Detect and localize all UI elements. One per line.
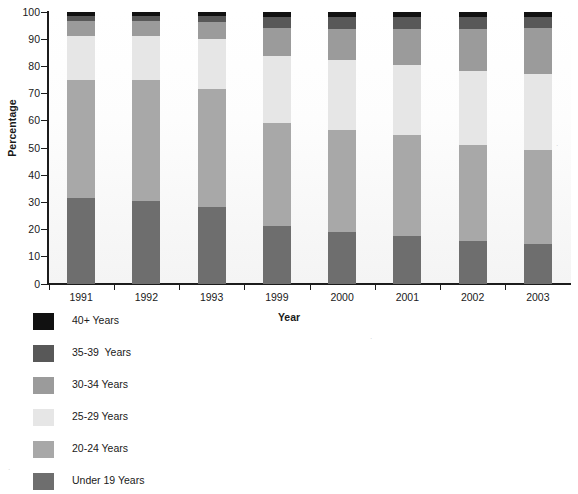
bar-2000 bbox=[328, 12, 356, 284]
plot-background bbox=[49, 11, 571, 283]
legend-swatch bbox=[33, 409, 54, 426]
x-tick-mark bbox=[114, 285, 115, 290]
y-tick-label: 90 bbox=[14, 33, 40, 45]
bar-1993 bbox=[198, 12, 226, 284]
bar-segment bbox=[198, 89, 226, 207]
bar-segment bbox=[459, 17, 487, 29]
bar-segment bbox=[263, 123, 291, 226]
bar-segment bbox=[393, 29, 421, 64]
bar-segment bbox=[459, 71, 487, 144]
decorative-mark-right: · bbox=[556, 142, 558, 149]
bar-segment bbox=[393, 135, 421, 236]
y-tick-label: 20 bbox=[14, 223, 40, 235]
bar-segment bbox=[459, 12, 487, 17]
y-tick-label: 40 bbox=[14, 169, 40, 181]
legend-item[interactable]: 20-24 Years bbox=[33, 437, 333, 469]
legend-label: Under 19 Years bbox=[72, 474, 144, 486]
bar-segment bbox=[263, 28, 291, 57]
bar-segment bbox=[328, 17, 356, 29]
x-tick-mark bbox=[179, 285, 180, 290]
y-tick-label: 100 bbox=[14, 6, 40, 18]
plot-area: Percentage 1009080706050403020100 199119… bbox=[0, 0, 578, 300]
bar-segment bbox=[198, 16, 226, 23]
x-tick-label: 1992 bbox=[111, 291, 181, 303]
y-axis-line bbox=[47, 11, 49, 284]
y-tick-label: 60 bbox=[14, 114, 40, 126]
bar-segment bbox=[328, 130, 356, 232]
bar-segment bbox=[67, 80, 95, 198]
bar-segment bbox=[524, 74, 552, 150]
bar-segment bbox=[524, 244, 552, 283]
legend-item[interactable]: Under 19 Years bbox=[33, 469, 333, 494]
x-tick-label: 1991 bbox=[46, 291, 116, 303]
x-tick-mark bbox=[505, 285, 506, 290]
bar-segment bbox=[393, 236, 421, 284]
bar-segment bbox=[132, 21, 160, 36]
legend-item[interactable]: 40+ Years bbox=[33, 309, 333, 341]
bar-1999 bbox=[263, 12, 291, 284]
bar-segment bbox=[198, 22, 226, 38]
legend-swatch bbox=[33, 473, 54, 490]
bar-segment bbox=[198, 207, 226, 283]
x-tick-label: 2003 bbox=[503, 291, 573, 303]
bar-segment bbox=[393, 17, 421, 29]
chart-legend: 40+ Years35-39 Years30-34 Years25-29 Yea… bbox=[33, 309, 333, 494]
bar-segment bbox=[263, 17, 291, 28]
legend-item[interactable]: 35-39 Years bbox=[33, 341, 333, 373]
y-tick-label: 0 bbox=[14, 278, 40, 290]
bar-segment bbox=[132, 80, 160, 201]
y-tick-label: 50 bbox=[14, 142, 40, 154]
bar-segment bbox=[67, 21, 95, 36]
bar-segment bbox=[198, 12, 226, 16]
legend-item[interactable]: 30-34 Years bbox=[33, 373, 333, 405]
x-tick-label: 1999 bbox=[242, 291, 312, 303]
legend-label: 35-39 Years bbox=[72, 346, 131, 358]
legend-swatch bbox=[33, 377, 54, 394]
legend-swatch bbox=[33, 345, 54, 362]
bar-segment bbox=[263, 56, 291, 123]
bar-segment bbox=[132, 12, 160, 16]
legend-swatch bbox=[33, 313, 54, 330]
bar-segment bbox=[132, 36, 160, 80]
x-tick-mark bbox=[375, 285, 376, 290]
decorative-mark: · bbox=[8, 466, 10, 473]
bar-1991 bbox=[67, 12, 95, 284]
legend-label: 30-34 Years bbox=[72, 378, 128, 390]
legend-item[interactable]: 25-29 Years bbox=[33, 405, 333, 437]
bar-segment bbox=[459, 145, 487, 242]
bar-segment bbox=[328, 232, 356, 284]
bar-segment bbox=[524, 17, 552, 28]
bar-segment bbox=[459, 241, 487, 283]
x-tick-label: 2001 bbox=[372, 291, 442, 303]
bar-segment bbox=[263, 226, 291, 283]
bar-segment bbox=[263, 12, 291, 17]
bar-2001 bbox=[393, 12, 421, 284]
bar-segment bbox=[524, 150, 552, 244]
bar-2003 bbox=[524, 12, 552, 284]
x-tick-mark bbox=[49, 285, 50, 290]
bar-segment bbox=[198, 39, 226, 89]
bar-segment bbox=[132, 16, 160, 21]
y-axis-tick-labels: 1009080706050403020100 bbox=[14, 0, 40, 300]
bar-segment bbox=[67, 16, 95, 21]
legend-label: 40+ Years bbox=[72, 314, 119, 326]
x-tick-mark bbox=[310, 285, 311, 290]
bar-segment bbox=[459, 29, 487, 71]
bar-segment bbox=[524, 28, 552, 74]
bar-segment bbox=[393, 12, 421, 17]
x-tick-label: 2002 bbox=[438, 291, 508, 303]
x-tick-mark bbox=[244, 285, 245, 290]
legend-swatch bbox=[33, 441, 54, 458]
decorative-mark-mid: · bbox=[370, 335, 372, 342]
legend-label: 25-29 Years bbox=[72, 410, 128, 422]
y-tick-label: 30 bbox=[14, 196, 40, 208]
bar-segment bbox=[393, 65, 421, 136]
bar-segment bbox=[524, 12, 552, 17]
y-tick-label: 80 bbox=[14, 60, 40, 72]
x-tick-mark bbox=[440, 285, 441, 290]
bar-segment bbox=[67, 12, 95, 16]
bar-2002 bbox=[459, 12, 487, 284]
bar-segment bbox=[328, 60, 356, 129]
bar-segment bbox=[132, 201, 160, 284]
